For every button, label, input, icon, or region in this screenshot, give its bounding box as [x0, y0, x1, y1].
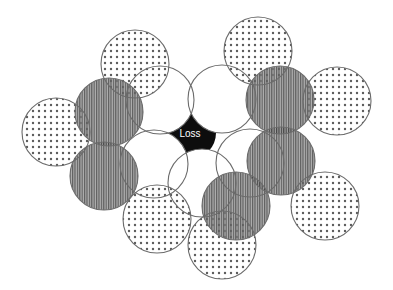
overlapping-circles-diagram: Loss: [0, 0, 393, 290]
loss-label: Loss: [179, 128, 200, 139]
